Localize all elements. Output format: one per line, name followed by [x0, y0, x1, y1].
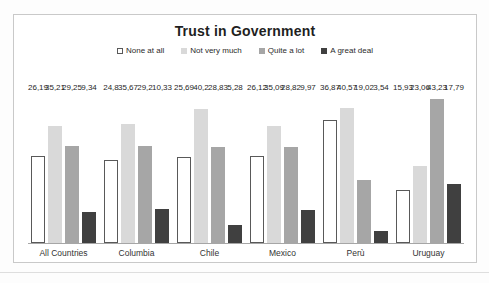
bar-none-at-all-per [323, 120, 337, 243]
bar-value-label: 9,34 [81, 83, 97, 92]
bar-quite-a-lot-mexico [284, 147, 298, 243]
bar-cell: 26,19 [31, 94, 45, 243]
bar-value-label: 29,2 [137, 83, 153, 92]
bar-quite-a-lot-per [357, 180, 371, 243]
bottom-divider [0, 272, 489, 273]
bar-value-label: 10,33 [152, 83, 172, 92]
legend-swatch-a-great-deal [321, 48, 327, 54]
bar-cell: 25,69 [177, 94, 191, 243]
chart-legend: None at allNot very muchQuite a lotA gre… [14, 46, 476, 55]
bar-cell: 3,54 [374, 94, 388, 243]
bar-value-label: 35,67 [118, 83, 138, 92]
bar-a-great-deal-per [374, 231, 388, 243]
category-label-per: Perù [323, 248, 388, 258]
legend-swatch-none-at-all [117, 48, 123, 54]
bar-cell: 29,25 [65, 94, 79, 243]
bar-a-great-deal-chile [228, 225, 242, 243]
legend-label: A great deal [330, 46, 373, 55]
bar-group-uruguay: 15,9323,0643,2317,79 [396, 94, 461, 243]
bar-value-label: 28,82 [281, 83, 301, 92]
category-label-columbia: Columbia [104, 248, 169, 258]
bar-value-label: 3,54 [373, 83, 389, 92]
category-label-mexico: Mexico [250, 248, 315, 258]
bar-value-label: 29,25 [62, 83, 82, 92]
chart-frame: Trust in Government None at allNot very … [13, 14, 477, 263]
bar-cell: 17,79 [447, 94, 461, 243]
bar-cell: 28,83 [211, 94, 225, 243]
bar-none-at-all-mexico [250, 156, 264, 243]
bar-quite-a-lot-columbia [138, 146, 152, 243]
category-label-chile: Chile [177, 248, 242, 258]
category-label-all-countries: All Countries [31, 248, 96, 258]
bar-cell: 35,09 [267, 94, 281, 243]
bar-cell: 26,12 [250, 94, 264, 243]
bar-cell: 43,23 [430, 94, 444, 243]
bar-cell: 28,82 [284, 94, 298, 243]
legend-item-not-very-much: Not very much [181, 46, 242, 55]
bar-not-very-much-uruguay [413, 166, 427, 243]
category-label-uruguay: Uruguay [396, 248, 461, 258]
bar-value-label: 17,79 [444, 83, 464, 92]
legend-swatch-quite-a-lot [259, 48, 265, 54]
bar-cell: 35,67 [121, 94, 135, 243]
bar-cell: 40,57 [340, 94, 354, 243]
bar-value-label: 5,28 [227, 83, 243, 92]
bar-quite-a-lot-uruguay [430, 99, 444, 243]
bar-quite-a-lot-all-countries [65, 146, 79, 244]
bar-none-at-all-chile [177, 157, 191, 243]
bar-none-at-all-columbia [104, 160, 118, 243]
bar-cell: 19,02 [357, 94, 371, 243]
bar-a-great-deal-columbia [155, 209, 169, 243]
bar-value-label: 40,2 [193, 83, 209, 92]
bar-cell: 15,93 [396, 94, 410, 243]
bar-cell: 35,21 [48, 94, 62, 243]
bar-cell: 40,2 [194, 94, 208, 243]
bar-not-very-much-chile [194, 109, 208, 243]
legend-swatch-not-very-much [181, 48, 187, 54]
legend-label: Not very much [190, 46, 242, 55]
bar-none-at-all-uruguay [396, 190, 410, 243]
bar-value-label: 9,97 [300, 83, 316, 92]
category-axis-labels: All CountriesColumbiaChileMexicoPerùUrug… [28, 244, 464, 262]
bar-cell: 23,06 [413, 94, 427, 243]
bar-group-per: 36,8740,5719,023,54 [323, 94, 388, 243]
bar-cell: 9,34 [82, 94, 96, 243]
legend-item-quite-a-lot: Quite a lot [259, 46, 304, 55]
plot-area: 26,1935,2129,259,3424,835,6729,210,3325,… [28, 94, 464, 244]
bar-not-very-much-mexico [267, 126, 281, 243]
bar-a-great-deal-mexico [301, 210, 315, 243]
bar-cell: 5,28 [228, 94, 242, 243]
bar-group-all-countries: 26,1935,2129,259,34 [31, 94, 96, 243]
bar-cell: 9,97 [301, 94, 315, 243]
legend-item-none-at-all: None at all [117, 46, 164, 55]
legend-item-a-great-deal: A great deal [321, 46, 373, 55]
bar-none-at-all-all-countries [31, 156, 45, 243]
bar-cell: 36,87 [323, 94, 337, 243]
bar-a-great-deal-all-countries [82, 212, 96, 243]
bar-not-very-much-all-countries [48, 126, 62, 243]
bar-group-mexico: 26,1235,0928,829,97 [250, 94, 315, 243]
bar-cell: 10,33 [155, 94, 169, 243]
bar-cell: 24,8 [104, 94, 118, 243]
bar-group-columbia: 24,835,6729,210,33 [104, 94, 169, 243]
legend-label: Quite a lot [268, 46, 304, 55]
bar-not-very-much-per [340, 108, 354, 243]
bar-cell: 29,2 [138, 94, 152, 243]
bar-value-label: 19,02 [354, 83, 374, 92]
bar-a-great-deal-uruguay [447, 184, 461, 243]
chart-title: Trust in Government [14, 23, 476, 39]
bar-group-chile: 25,6940,228,835,28 [177, 94, 242, 243]
bar-not-very-much-columbia [121, 124, 135, 243]
bar-value-label: 28,83 [208, 83, 228, 92]
legend-label: None at all [126, 46, 164, 55]
bar-quite-a-lot-chile [211, 147, 225, 243]
bar-value-label: 25,69 [174, 83, 194, 92]
bar-value-label: 24,8 [103, 83, 119, 92]
